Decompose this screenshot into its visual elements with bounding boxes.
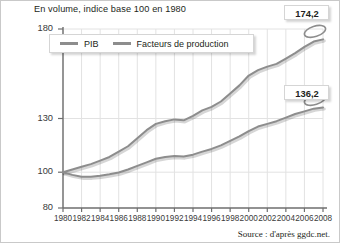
pib-end-callout: 174,2 bbox=[284, 5, 329, 20]
chart-frame: En volume, indice base 100 en 1980 80100… bbox=[0, 0, 340, 243]
x-tick-label: 2008 bbox=[314, 214, 332, 223]
x-tick-label: 1988 bbox=[128, 214, 146, 223]
y-tick-label: 100 bbox=[29, 166, 53, 176]
x-tick-label: 1994 bbox=[184, 214, 202, 223]
x-tick-label: 2004 bbox=[277, 214, 295, 223]
x-tick-label: 1986 bbox=[110, 214, 128, 223]
legend-item-pib[interactable]: PIB bbox=[60, 39, 99, 49]
x-tick-label: 1992 bbox=[165, 214, 183, 223]
y-tick-label: 180 bbox=[29, 23, 53, 33]
x-tick-label: 1982 bbox=[72, 214, 90, 223]
legend-label-facteurs: Facteurs de production bbox=[137, 39, 229, 49]
x-tick-label: 2006 bbox=[295, 214, 313, 223]
facteurs-end-callout: 136,2 bbox=[284, 85, 329, 100]
x-tick-label: 1984 bbox=[91, 214, 109, 223]
series-line-shadow bbox=[64, 109, 324, 178]
x-tick-label: 1980 bbox=[54, 214, 72, 223]
legend-label-pib: PIB bbox=[84, 39, 99, 49]
source-note: Source : d'après ggdc.net. bbox=[238, 229, 330, 239]
legend-swatch-pib bbox=[60, 42, 78, 44]
y-tick-label: 80 bbox=[29, 202, 53, 212]
legend-item-facteurs[interactable]: Facteurs de production bbox=[113, 39, 229, 49]
chart-legend: PIB Facteurs de production bbox=[49, 34, 254, 53]
series-lines bbox=[63, 39, 324, 178]
x-tick-label: 1996 bbox=[202, 214, 220, 223]
x-tick-label: 2002 bbox=[258, 214, 276, 223]
y-tick-label: 130 bbox=[29, 113, 53, 123]
x-tick-label: 1990 bbox=[147, 214, 165, 223]
x-tick-label: 2000 bbox=[240, 214, 258, 223]
x-tick-label: 1998 bbox=[221, 214, 239, 223]
legend-swatch-facteurs bbox=[113, 42, 131, 44]
